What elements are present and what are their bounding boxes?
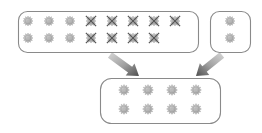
gear-crossed-out-icon [149,16,159,26]
gear-crossed-out-icon [170,16,180,26]
gear-crossed-out-icon [86,33,96,43]
gear-crossed-out-icon [86,16,96,26]
gear-crossed-out-icon [128,33,138,43]
pool-box-result-pool [101,79,221,124]
gear-crossed-out-icon [149,33,159,43]
flow-arrow-icon [108,52,139,76]
diagram-canvas [0,0,262,133]
gear-crossed-out-icon [107,33,117,43]
gear-crossed-out-icon [128,16,138,26]
flow-arrow-icon [196,52,224,76]
gear-crossed-out-icon [107,16,117,26]
arrows-layer [108,52,224,76]
pool-box-source-pool [19,12,199,53]
selection-diagram [0,0,262,133]
pool-box-extra-pool [211,12,251,53]
